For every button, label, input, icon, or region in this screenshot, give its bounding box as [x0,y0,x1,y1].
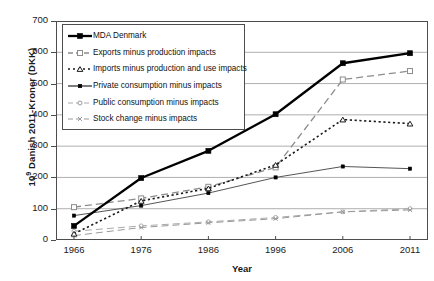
marker-filled-square [274,176,277,179]
legend-item[interactable]: Private consumption minus impacts [67,78,240,95]
marker-open-square [340,77,345,82]
data-point-marker [72,214,75,217]
data-point-marker [207,191,210,194]
marker-open-circle [78,101,82,105]
marker-open-square [408,69,413,74]
marker-filled-square [140,204,143,207]
y-tick-label: 300 [14,139,48,150]
x-tick-label: 1976 [118,244,164,255]
data-point-marker [206,148,211,153]
marker-filled-square [408,167,411,170]
legend-marker [67,79,93,93]
y-tick-mark [51,240,56,241]
legend-marker [67,62,93,76]
x-tick-label: 2006 [320,244,366,255]
y-tick-label: 500 [14,77,48,88]
marker-filled-square [340,61,345,66]
y-tick-label: 100 [14,202,48,213]
data-point-marker [77,67,83,72]
data-point-marker [78,34,83,39]
series-line [74,120,410,234]
y-tick-label: 200 [14,170,48,181]
marker-filled-square [273,112,278,117]
y-tick-label: 400 [14,108,48,119]
data-point-marker [274,176,277,179]
marker-filled-square [78,34,83,39]
marker-open-square [78,50,83,55]
data-point-marker [341,165,344,168]
x-tick-label: 1966 [51,244,97,255]
legend-item[interactable]: MDA Denmark [67,28,240,45]
x-tick-label: 2011 [387,244,433,255]
marker-open-triangle [77,67,83,72]
data-point-marker [408,51,413,56]
data-point-marker [140,204,143,207]
marker-filled-square [139,176,144,181]
data-point-marker [72,205,77,210]
marker-filled-square [78,84,81,87]
legend-label: Exports minus production impacts [93,49,216,57]
legend-item[interactable]: Imports minus production and use impacts [67,61,240,78]
series-line [74,209,410,232]
marker-filled-square [207,191,210,194]
x-tick-label: 1986 [185,244,231,255]
data-point-marker [273,112,278,117]
y-tick-label: 700 [14,14,48,25]
legend-item[interactable]: Public consumption minus impacts [67,94,240,111]
legend-label: Imports minus production and use impacts [93,65,247,73]
data-point-marker [407,121,413,126]
legend-label: Stock change minus impacts [93,115,197,123]
data-point-marker [340,117,346,122]
series-5 [72,208,412,238]
data-point-marker [72,223,77,228]
y-tick-label: 0 [14,233,48,244]
legend-item[interactable]: Stock change minus impacts [67,111,240,128]
marker-filled-square [206,148,211,153]
data-point-marker [408,167,411,170]
legend-marker [67,112,93,126]
marker-open-triangle [340,117,346,122]
legend-label: Public consumption minus impacts [93,99,219,107]
data-point-marker [78,84,81,87]
marker-filled-square [72,214,75,217]
legend-label: Private consumption minus impacts [93,82,222,90]
line-chart: 109 Danish 2011-Kroner (DKK) 01002003004… [0,0,434,281]
legend-marker [67,46,93,60]
marker-open-square [72,205,77,210]
marker-filled-square [408,51,413,56]
marker-open-triangle [407,121,413,126]
series-2 [71,117,413,236]
marker-filled-square [341,165,344,168]
chart-legend: MDA DenmarkExports minus production impa… [62,24,245,130]
data-point-marker [139,176,144,181]
marker-filled-square [72,223,77,228]
x-axis-title: Year [56,263,428,274]
x-tick-label: 1996 [253,244,299,255]
legend-label: MDA Denmark [93,32,146,40]
data-point-marker [340,61,345,66]
data-point-marker [408,69,413,74]
data-point-marker [340,77,345,82]
legend-item[interactable]: Exports minus production impacts [67,45,240,62]
y-tick-label: 600 [14,45,48,56]
data-point-marker [78,50,83,55]
data-point-marker [78,101,82,105]
legend-marker [67,96,93,110]
legend-marker [67,29,93,43]
series-line [74,210,410,236]
